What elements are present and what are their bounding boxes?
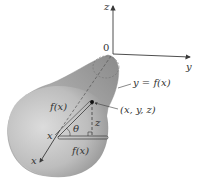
point-label: (x, y, z) — [120, 105, 156, 115]
theta-label: θ — [73, 124, 79, 134]
radius-upper-label: f(x) — [50, 102, 67, 112]
x-axis-label: x — [31, 156, 37, 166]
surface-of-revolution-figure: z 0 y y = f(x) (x, y, z) f(x) f(x) x θ z… — [0, 0, 197, 182]
y-axis-label: y — [186, 62, 192, 72]
origin-label: 0 — [103, 43, 109, 53]
curve-label: y = f(x) — [133, 78, 171, 88]
z-height-label: z — [95, 118, 100, 128]
point-marker — [90, 100, 94, 104]
z-axis-label: z — [104, 2, 109, 12]
front-face — [8, 86, 108, 177]
figure-graphic — [0, 0, 197, 182]
x-position-label: x — [47, 131, 53, 141]
y-axis — [113, 54, 190, 57]
radius-lower-label: f(x) — [72, 146, 89, 156]
curve-leader — [118, 84, 131, 88]
